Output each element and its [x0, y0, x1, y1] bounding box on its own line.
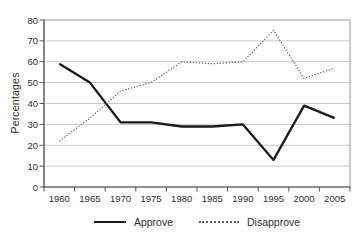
legend: Approve Disapprove: [44, 216, 350, 228]
x-tick-label: 1985: [195, 193, 229, 204]
x-tick-label: 1995: [257, 193, 291, 204]
x-tick-label: 1990: [226, 193, 260, 204]
x-tick-label: 2000: [287, 193, 321, 204]
y-tick-label: 40: [0, 98, 38, 109]
line-chart: Percentages 01020304050607080 1960196519…: [0, 0, 360, 241]
y-tick-label: 20: [0, 140, 38, 151]
legend-label-disapprove: Disapprove: [247, 216, 300, 228]
y-tick-label: 60: [0, 56, 38, 67]
x-tick-label: 2005: [318, 193, 352, 204]
y-tick-label: 0: [0, 182, 38, 193]
x-tick-label: 1975: [134, 193, 168, 204]
disapprove-line-sample: [199, 221, 239, 223]
y-tick-label: 50: [0, 77, 38, 88]
legend-label-approve: Approve: [134, 216, 173, 228]
plot-area: [0, 0, 360, 241]
x-tick-label: 1980: [165, 193, 199, 204]
legend-item-approve: Approve: [94, 216, 173, 228]
x-tick-label: 1960: [42, 193, 76, 204]
y-tick-label: 30: [0, 119, 38, 130]
x-tick-label: 1970: [104, 193, 138, 204]
x-tick-label: 1965: [73, 193, 107, 204]
y-tick-label: 70: [0, 35, 38, 46]
y-tick-label: 80: [0, 15, 38, 26]
approve-line-sample: [94, 221, 126, 223]
legend-item-disapprove: Disapprove: [199, 216, 300, 228]
y-tick-label: 10: [0, 161, 38, 172]
